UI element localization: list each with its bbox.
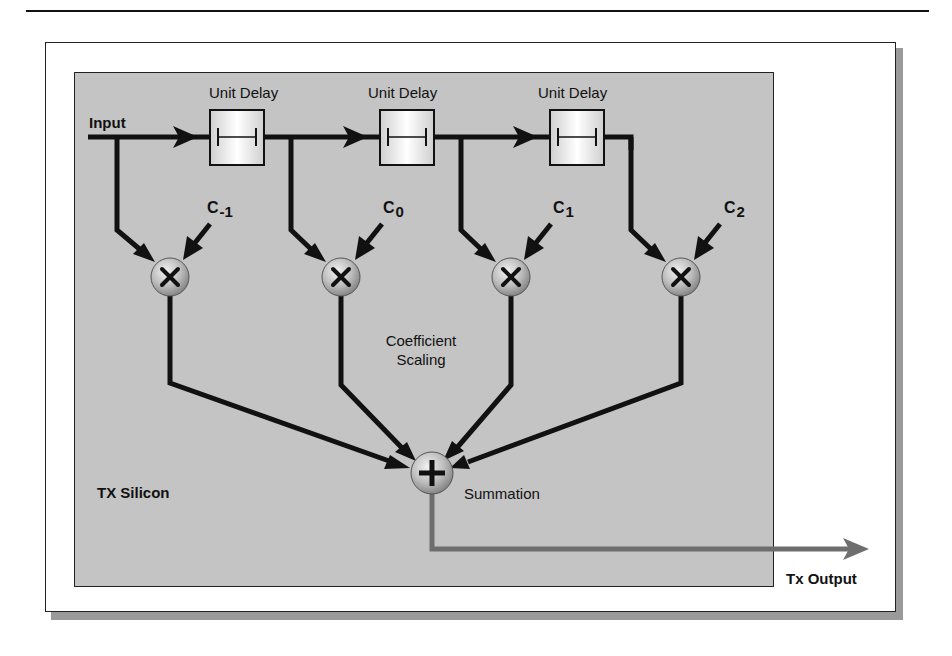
unit-delay-label-3: Unit Delay	[538, 85, 607, 100]
coefficient-scaling-line1: Coefficient	[383, 332, 459, 351]
coef-base: C	[724, 199, 736, 216]
coef-base: C	[383, 199, 395, 216]
tap-arrow-icons	[133, 243, 666, 262]
multiplier-node-3	[492, 258, 530, 296]
coef-sub: 1	[566, 203, 574, 220]
coefficient-arrow-icons	[183, 236, 714, 260]
unit-delay-block-2	[380, 110, 434, 165]
coef-base: C	[207, 199, 219, 216]
multiplier-node-4	[662, 258, 700, 296]
coefficient-label-c-minus1: C-1	[207, 200, 233, 216]
tx-output-label: Tx Output	[786, 571, 857, 586]
coefficient-label-c0: C0	[383, 200, 404, 216]
summation-node	[411, 452, 453, 494]
summation-label: Summation	[464, 486, 540, 501]
unit-delay-label-2: Unit Delay	[368, 85, 437, 100]
coefficient-scaling-label: Coefficient Scaling	[383, 332, 459, 370]
multiplier-node-2	[322, 258, 360, 296]
coefficient-label-c1: C1	[553, 200, 574, 216]
unit-delay-label-1: Unit Delay	[209, 85, 278, 100]
unit-delay-block-1	[210, 110, 264, 165]
multiplier-node-1	[151, 258, 189, 296]
unit-delay-block-3	[550, 110, 604, 165]
coef-sub: 2	[737, 203, 745, 220]
coef-base: C	[553, 199, 565, 216]
input-label: Input	[89, 115, 126, 130]
coef-sub: 0	[396, 203, 404, 220]
multiplier-output-lines	[170, 296, 681, 462]
tx-silicon-label: TX Silicon	[97, 485, 170, 500]
coef-sub: -1	[220, 203, 233, 220]
fir-diagram	[0, 0, 952, 656]
coefficient-scaling-line2: Scaling	[383, 351, 459, 370]
coefficient-label-c2: C2	[724, 200, 745, 216]
